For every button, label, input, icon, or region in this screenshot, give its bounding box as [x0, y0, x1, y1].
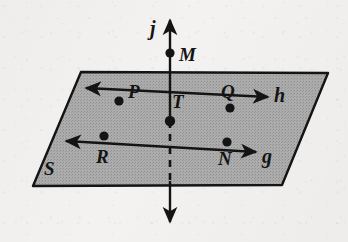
diagram-canvas [0, 0, 348, 242]
point-label-t: T [172, 92, 184, 111]
point-label-r: R [96, 147, 109, 166]
point-label-m: M [179, 45, 196, 64]
point-t-dot [165, 116, 175, 126]
line-label-g: g [262, 146, 272, 166]
point-p-dot [114, 96, 123, 105]
line-label-j: j [150, 18, 156, 38]
point-r-dot [99, 131, 108, 140]
geometry-figure: M P T Q R N h g j S [0, 0, 348, 242]
point-q-dot [225, 103, 234, 112]
point-label-p: P [128, 82, 140, 101]
point-label-n: N [218, 149, 232, 168]
point-m-dot [165, 48, 174, 57]
point-label-q: Q [221, 82, 235, 101]
point-n-dot [222, 137, 231, 146]
line-label-h: h [274, 85, 285, 105]
plane-label-s: S [44, 159, 55, 178]
